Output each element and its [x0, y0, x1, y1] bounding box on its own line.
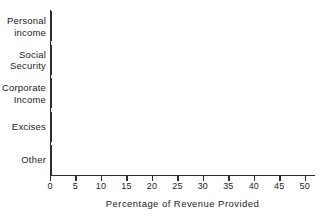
x-tick-label: 30 — [198, 181, 208, 191]
x-tick-label: 50 — [300, 181, 310, 191]
bar-category-label: Corporate Income — [0, 82, 46, 105]
bar — [50, 11, 52, 41]
bar-row: Other — [50, 145, 75, 175]
x-tick-label: 40 — [249, 181, 259, 191]
x-axis-title: Percentage of Revenue Provided — [50, 198, 315, 209]
bar-row: Corporate Income — [50, 78, 132, 108]
plot-area: 05101520253035404550 Personal incomeSoci… — [0, 0, 328, 219]
bar-row: Social Security — [50, 45, 208, 75]
bar-category-label: Personal income — [0, 15, 46, 38]
x-tick-label: 35 — [223, 181, 233, 191]
bar-category-label: Other — [0, 154, 46, 166]
x-tick-label: 5 — [73, 181, 78, 191]
x-tick-label: 25 — [172, 181, 182, 191]
bar-category-label: Social Security — [0, 48, 46, 71]
bar-category-label: Excises — [0, 121, 46, 133]
bar-row: Excises — [50, 112, 75, 142]
bar-row: Personal income — [50, 11, 271, 41]
x-tick-label: 45 — [274, 181, 284, 191]
x-axis-line — [50, 175, 315, 176]
bar — [50, 78, 52, 108]
bar — [50, 112, 52, 142]
bar — [50, 145, 52, 175]
bar — [50, 45, 52, 75]
x-tick-label: 20 — [147, 181, 157, 191]
bar-chart: 05101520253035404550 Personal incomeSoci… — [0, 0, 328, 219]
x-tick-label: 15 — [121, 181, 131, 191]
x-tick-label: 0 — [47, 181, 52, 191]
x-tick-label: 10 — [96, 181, 106, 191]
